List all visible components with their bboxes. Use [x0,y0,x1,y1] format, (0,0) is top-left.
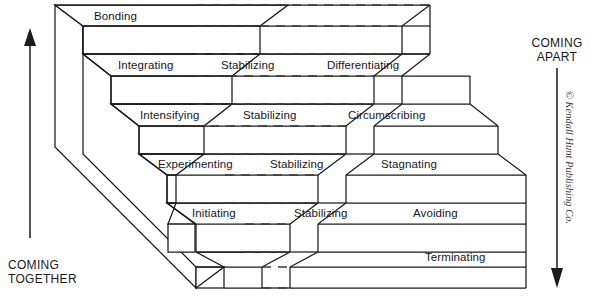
stage-label-initiating: Initiating [192,208,236,220]
figure-canvas: Bonding Integrating Intensifying Experim… [0,0,596,306]
stage-label-stabilizing-2: Stabilizing [270,159,324,171]
riser-level-1 [196,224,290,252]
stage-label-circumscribing: Circumscribing [348,110,425,122]
stage-label-terminating: Terminating [425,252,486,264]
stage-label-stagnating: Stagnating [381,159,437,171]
step-bottom-floor [196,267,224,288]
axis-label-coming-apart: COMING APART [528,36,586,64]
stage-label-bonding: Bonding [94,11,137,23]
tread-level-0 [196,252,290,267]
axis-label-coming-together: COMING TOGETHER [8,258,77,286]
stage-label-stabilizing-4: Stabilizing [221,60,275,72]
coming-apart-arrow [551,68,563,288]
step-bonding [55,5,288,54]
stage-label-differentiating: Differentiating [327,60,399,72]
stage-label-stabilizing-1: Stabilizing [294,208,348,220]
riser-level-2 [167,175,318,203]
copyright-credit: © Kendall Hunt Publishing Co. [564,73,575,243]
staircase-diagram [0,0,596,306]
stage-label-stabilizing-3: Stabilizing [243,110,297,122]
coming-together-arrow [24,28,36,238]
stage-label-experimenting: Experimenting [158,159,233,171]
step-initiating [167,203,195,252]
stage-label-integrating: Integrating [118,60,173,72]
right-staircase-runs [290,76,526,288]
stage-label-avoiding: Avoiding [413,208,458,220]
stage-label-intensifying: Intensifying [140,110,199,122]
